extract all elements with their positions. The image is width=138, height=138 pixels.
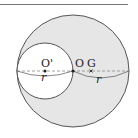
- label-g: G: [87, 57, 96, 70]
- label-o: O: [75, 57, 84, 70]
- label-r-left: r: [41, 71, 47, 84]
- label-o-prime: O': [41, 57, 53, 70]
- label-r-right: r: [96, 73, 102, 86]
- diagram-canvas: O' O G r r: [0, 0, 138, 138]
